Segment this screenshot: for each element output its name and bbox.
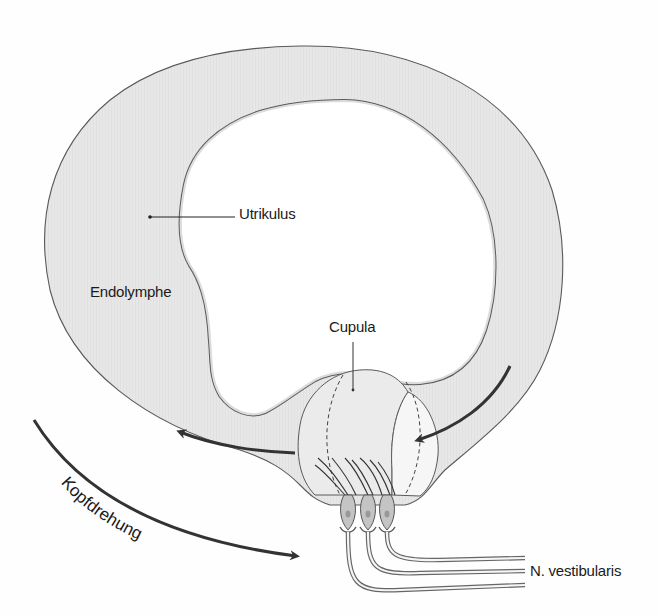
hair-cells <box>340 495 395 532</box>
cupula-label: Cupula <box>329 318 375 335</box>
nerve-fibers <box>348 532 525 590</box>
nervus-vestibularis-label: N. vestibularis <box>530 562 621 579</box>
hair-cell-3 <box>380 495 395 530</box>
endolymphe-label: Endolymphe <box>90 283 171 300</box>
diagram-canvas: Kopfdrehung Utrikulus Endolymphe Cupula … <box>0 0 658 616</box>
utrikulus-label: Utrikulus <box>239 205 296 222</box>
semicircular-canal-diagram: Kopfdrehung <box>0 0 658 616</box>
hair-cell-2 <box>361 495 376 530</box>
hair-cell-1 <box>341 495 356 530</box>
